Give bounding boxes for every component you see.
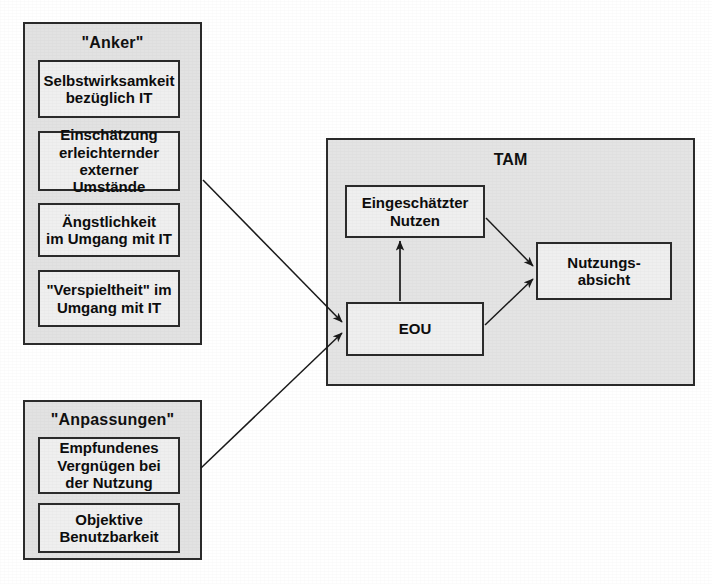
- edge-anker-to-eou: [203, 180, 342, 322]
- node-selbstwirksamkeit: Selbstwirksamkeit bezüglich IT: [38, 60, 180, 118]
- node-eou-label: EOU: [399, 320, 432, 337]
- node-eingeschaetzter-nutzen-label: Eingeschätzter Nutzen: [362, 194, 469, 229]
- node-einschaetzung-label: Einschätzung erleichternder externer Ums…: [43, 126, 175, 196]
- node-objektive-benutzbarkeit-label: Objektive Benutzbarkeit: [59, 511, 158, 546]
- group-anpassungen-title: "Anpassungen": [25, 411, 200, 429]
- node-verspieltheit: "Verspieltheit" im Umgang mit IT: [38, 270, 180, 327]
- node-objektive-benutzbarkeit: Objektive Benutzbarkeit: [38, 503, 180, 553]
- node-empfundenes-vergnuegen-label: Empfundenes Vergnügen bei der Nutzung: [57, 439, 160, 491]
- group-anker-title: "Anker": [25, 34, 200, 52]
- node-aengstlichkeit-label: Ängstlichkeit im Umgang mit IT: [46, 213, 172, 248]
- diagram-canvas: "Anker" Selbstwirksamkeit bezüglich IT E…: [0, 0, 712, 584]
- node-nutzungsabsicht-label: Nutzungs- absicht: [567, 254, 640, 289]
- node-eou: EOU: [346, 302, 484, 356]
- node-einschaetzung: Einschätzung erleichternder externer Ums…: [38, 131, 180, 191]
- node-selbstwirksamkeit-label: Selbstwirksamkeit bezüglich IT: [44, 72, 175, 107]
- node-eingeschaetzter-nutzen: Eingeschätzter Nutzen: [345, 185, 485, 238]
- group-tam-title: TAM: [328, 151, 693, 169]
- node-aengstlichkeit: Ängstlichkeit im Umgang mit IT: [38, 203, 180, 257]
- edge-anpassungen-to-eou: [201, 333, 342, 468]
- node-verspieltheit-label: "Verspieltheit" im Umgang mit IT: [46, 281, 171, 316]
- node-nutzungsabsicht: Nutzungs- absicht: [536, 242, 672, 300]
- node-empfundenes-vergnuegen: Empfundenes Vergnügen bei der Nutzung: [38, 437, 180, 494]
